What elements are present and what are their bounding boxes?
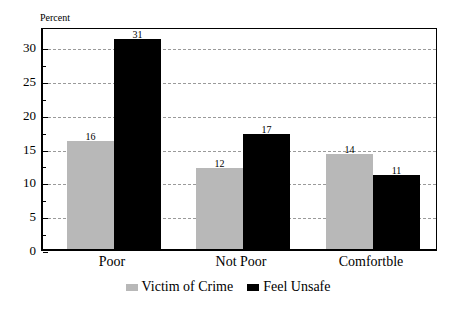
bar-unsafe-1 xyxy=(243,134,290,249)
y-minor-tick xyxy=(43,167,46,168)
y-tick-label: 25 xyxy=(8,74,36,90)
legend-label-unsafe: Feel Unsafe xyxy=(263,279,330,295)
bar-unsafe-2 xyxy=(373,175,420,249)
y-tick-label: 15 xyxy=(8,142,36,158)
legend-swatch-unsafe xyxy=(247,284,259,291)
legend-swatch-victim xyxy=(126,284,138,291)
bar-unsafe-0 xyxy=(114,39,161,249)
bar-value-label: 31 xyxy=(118,29,158,40)
plot-frame: 163112171411 xyxy=(41,28,437,251)
gridline xyxy=(43,117,436,118)
bar-value-label: 17 xyxy=(247,124,287,135)
bar-value-label: 11 xyxy=(377,165,417,176)
y-minor-tick xyxy=(43,134,46,135)
y-minor-tick xyxy=(43,66,46,67)
y-tick xyxy=(43,83,48,84)
y-minor-tick xyxy=(43,201,46,202)
y-minor-tick xyxy=(43,100,46,101)
bar-victim-2 xyxy=(326,154,373,249)
gridline xyxy=(43,83,436,84)
x-category-label: Poor xyxy=(52,254,172,270)
legend-label-victim: Victim of Crime xyxy=(142,279,234,295)
y-tick-label: 30 xyxy=(8,40,36,56)
bar-value-label: 14 xyxy=(330,144,370,155)
y-tick-label: 10 xyxy=(8,175,36,191)
legend: Victim of Crime Feel Unsafe xyxy=(0,279,456,295)
y-tick xyxy=(43,218,48,219)
legend-item-unsafe: Feel Unsafe xyxy=(247,279,330,295)
y-tick-label: 20 xyxy=(8,108,36,124)
bar-value-label: 12 xyxy=(200,158,240,169)
y-tick xyxy=(43,184,48,185)
y-tick xyxy=(43,117,48,118)
y-minor-tick xyxy=(43,235,46,236)
y-tick xyxy=(43,49,48,50)
y-axis-title: Percent xyxy=(40,12,70,23)
bar-value-label: 16 xyxy=(71,131,111,142)
legend-item-victim: Victim of Crime xyxy=(126,279,234,295)
y-tick-label: 0 xyxy=(8,243,36,259)
x-category-label: Not Poor xyxy=(181,254,301,270)
gridline xyxy=(43,49,436,50)
x-category-label: Comfortble xyxy=(311,254,431,270)
y-tick xyxy=(43,252,48,253)
bar-victim-0 xyxy=(67,141,114,249)
bar-victim-1 xyxy=(196,168,243,249)
y-tick-label: 5 xyxy=(8,209,36,225)
y-tick xyxy=(43,151,48,152)
